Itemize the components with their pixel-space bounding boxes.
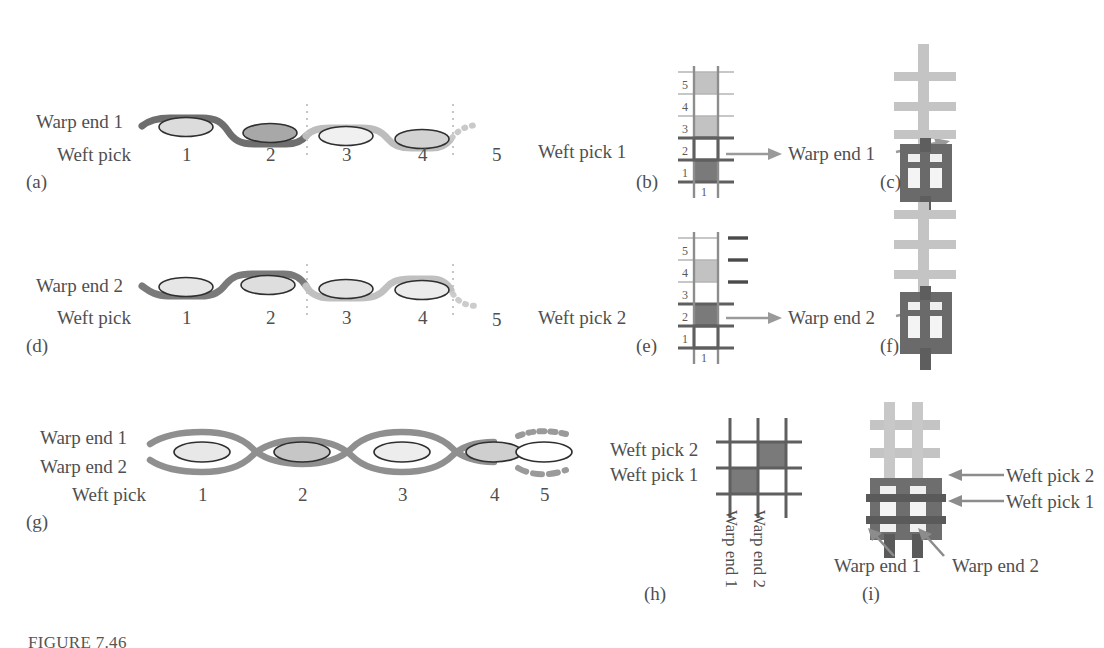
pick-number-a-3: 3 <box>342 145 352 164</box>
pick-number-a-2: 2 <box>266 145 276 164</box>
pick-number-a-5: 5 <box>492 145 502 164</box>
weft-pick-2-label-e: Weft pick 2 <box>538 308 626 327</box>
pick-number-a-1: 1 <box>182 145 192 164</box>
row-label-e-5: 5 <box>682 244 688 258</box>
panel-id-f: (f) <box>880 336 899 355</box>
panel-i-arrow-warp-end-1 <box>868 528 902 558</box>
warp-end-2-label-ef: Warp end 2 <box>788 308 875 327</box>
panel-f-3d-weave <box>884 196 1004 362</box>
panel-id-i: (i) <box>862 584 880 603</box>
panel-id-a: (a) <box>26 172 47 191</box>
row-label-b-3: 3 <box>682 122 688 136</box>
panel-b-arrow-to-label <box>726 146 782 162</box>
weft-pick-1-label-b: Weft pick 1 <box>538 142 626 161</box>
row-label-b-4: 4 <box>682 100 688 114</box>
panel-id-e: (e) <box>636 336 657 355</box>
row-label-e-4: 4 <box>682 266 688 280</box>
panel-e-arrow-to-label <box>726 310 782 326</box>
panel-i-arrow-warp-end-2 <box>914 528 950 558</box>
panel-h-point-paper <box>716 414 836 524</box>
panel-id-d: (d) <box>26 336 48 355</box>
panel-id-h: (h) <box>644 584 666 603</box>
panel-id-g: (g) <box>26 512 48 531</box>
warp-end-2-label-g: Warp end 2 <box>40 457 127 476</box>
panel-i-arrow-weft-pick-2 <box>948 468 1004 482</box>
panel-e-point-paper: 1 2 3 4 5 1 <box>672 232 802 350</box>
warp-end-2-label-i: Warp end 2 <box>952 556 1039 575</box>
pick-number-d-4: 4 <box>418 308 428 327</box>
row-label-b-5: 5 <box>682 78 688 92</box>
panel-id-c: (c) <box>880 172 901 191</box>
weft-pick-label-g: Weft pick <box>72 485 146 504</box>
weft-pick-2-label-i: Weft pick 2 <box>1006 466 1094 485</box>
figure-caption-number: FIGURE 7.46 <box>28 634 127 648</box>
pick-number-g-4: 4 <box>490 485 500 504</box>
pick-number-g-5: 5 <box>540 485 550 504</box>
warp-end-1-label-g: Warp end 1 <box>40 428 127 447</box>
weft-pick-1-label-h: Weft pick 1 <box>610 465 698 484</box>
row-label-e-2: 2 <box>682 310 688 324</box>
pick-number-g-1: 1 <box>198 485 208 504</box>
weft-pick-label-d: Weft pick <box>57 308 131 327</box>
panel-c-3d-weave <box>884 26 1004 192</box>
pick-number-d-2: 2 <box>266 308 276 327</box>
panel-i-arrow-weft-pick-1 <box>948 494 1004 508</box>
panel-g-thread-diagram <box>146 418 546 492</box>
col-label-e-1: 1 <box>701 351 707 365</box>
warp-end-1-label-bc: Warp end 1 <box>788 144 875 163</box>
pick-number-d-5: 5 <box>492 310 502 329</box>
pick-number-d-3: 3 <box>342 308 352 327</box>
pick-number-g-3: 3 <box>398 485 408 504</box>
warp-end-1-label-a: Warp end 1 <box>36 112 123 131</box>
warp-end-1-label-i: Warp end 1 <box>834 556 921 575</box>
row-label-b-2: 2 <box>682 144 688 158</box>
panel-id-b: (b) <box>636 172 658 191</box>
weft-pick-2-label-h: Weft pick 2 <box>610 440 698 459</box>
col-label-b-1: 1 <box>701 185 707 199</box>
figure-plain-weave-diagram: Warp end 1 Weft pick 1 2 3 4 5 (a) Weft … <box>0 0 1104 648</box>
warp-end-2-label-d: Warp end 2 <box>36 276 123 295</box>
row-label-e-1: 1 <box>682 332 688 346</box>
pick-number-g-2: 2 <box>298 485 308 504</box>
pick-number-d-1: 1 <box>182 308 192 327</box>
row-label-b-1: 1 <box>682 166 688 180</box>
weft-pick-1-label-i: Weft pick 1 <box>1006 492 1094 511</box>
panel-b-point-paper: 1 2 3 4 5 1 <box>672 66 802 184</box>
pick-number-a-4: 4 <box>418 145 428 164</box>
warp-end-2-label-h: Warp end 2 <box>751 510 768 588</box>
weft-pick-label-a: Weft pick <box>57 145 131 164</box>
warp-end-1-label-h: Warp end 1 <box>723 510 740 588</box>
row-label-e-3: 3 <box>682 288 688 302</box>
